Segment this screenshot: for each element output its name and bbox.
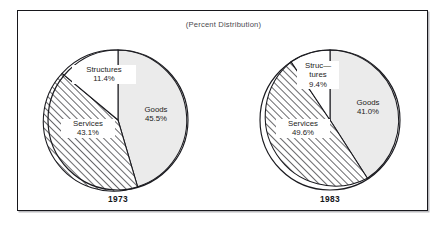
pie-1973-structures-name: Structures: [73, 65, 135, 74]
pie-1983-services-name: Services: [277, 119, 329, 128]
pie-1983-year-label: 1983: [298, 194, 362, 204]
pie-1973-goods-value: 45.5%: [132, 114, 180, 123]
pie-1983-structures-name-line2: tures: [298, 70, 338, 79]
pie-chart-figure: (Percent Distribution): [0, 0, 447, 230]
pie-1973-goods-name: Goods: [132, 105, 180, 114]
pie-1983-structures-value: 9.4%: [298, 80, 338, 89]
pie-1973-services-name: Services: [62, 119, 114, 128]
pie-1973-label-goods: Goods 45.5%: [131, 105, 181, 124]
pie-1983-structures-name-line1: Struc—: [298, 61, 338, 70]
pie-1973-services-value: 43.1%: [62, 128, 114, 137]
pie-1983-label-structures: Struc— tures 9.4%: [297, 61, 339, 89]
pie-1973-year-label: 1973: [86, 194, 150, 204]
pie-1983-services-value: 49.6%: [277, 128, 329, 137]
pie-1973-label-structures: Structures 11.4%: [72, 65, 136, 84]
pie-1983-label-goods: Goods 41.0%: [343, 98, 393, 117]
pie-1973-label-services: Services 43.1%: [61, 119, 115, 138]
pie-1983-label-services: Services 49.6%: [276, 119, 330, 138]
pie-1973-structures-value: 11.4%: [73, 74, 135, 83]
pie-1983-goods-name: Goods: [344, 98, 392, 107]
pie-1983-goods-value: 41.0%: [344, 107, 392, 116]
